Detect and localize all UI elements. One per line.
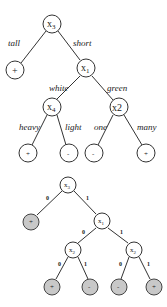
edge-label-green: green [107,83,128,93]
svg-text:x2: x2 [112,102,122,113]
edge-bx1-0 [78,228,96,243]
svg-text:+: + [152,283,156,291]
edge-label-light: light [65,122,82,132]
edge-label-bx3-0: 0 [46,195,49,201]
leaf-minus-light: - [60,144,78,162]
svg-text:+: + [26,150,30,158]
svg-text:+: + [50,283,54,291]
leaf-b-plus-4: + [146,279,162,295]
top-tree: tall short white green heavy light one m… [6,15,157,162]
bottom-tree: 0 1 0 1 0 1 0 1 x3 x1 x2 x2 + [23,177,162,295]
node-x2: x2 [110,98,128,116]
leaf-b-plus-0: + [23,214,39,230]
edge-label-bx2r-0: 0 [119,261,122,267]
edge-label-heavy: heavy [19,122,40,132]
edge-label-bx3-1: 1 [86,195,89,201]
edge-bx3-0 [37,191,62,215]
edge-label-bx2r-1: 1 [147,261,150,267]
leaf-plus-heavy: + [19,144,37,162]
edge-x3-tall [21,31,46,63]
leaf-minus-one: - [85,144,103,162]
svg-text:+: + [12,65,18,76]
leaf-plus-tall: + [6,61,24,79]
leaf-b-minus-3: - [111,279,127,295]
edge-label-bx1-1: 1 [120,229,123,235]
edge-label-bx1-0: 0 [82,229,85,235]
svg-text:+: + [144,150,148,158]
node-b-x3: x3 [60,177,76,193]
edge-label-bx2l-1: 1 [84,261,87,267]
edge-bx3-1 [74,191,96,214]
edge-bx2r-0 [121,257,129,279]
edge-bx1-1 [108,228,128,243]
node-x1: x1 [77,59,95,77]
edge-label-many: many [137,122,157,132]
node-b-x1: x1 [94,213,110,229]
decision-tree-figure: tall short white green heavy light one m… [0,0,167,307]
node-x3: x3 [43,15,61,33]
node-x4: x4 [43,98,61,116]
edge-label-bx2l-0: 0 [58,261,61,267]
leaf-b-plus-1: + [44,279,60,295]
leaf-b-minus-2: - [82,279,98,295]
edge-label-one: one [94,122,107,132]
svg-text:+: + [29,218,33,226]
edge-label-tall: tall [8,38,21,48]
node-b-x2-right: x2 [126,242,142,258]
leaf-plus-many: + [137,144,155,162]
edge-label-short: short [73,38,92,48]
edge-label-white: white [49,83,69,93]
node-b-x2-left: x2 [65,242,81,258]
decision-tree-svg: tall short white green heavy light one m… [0,0,167,307]
